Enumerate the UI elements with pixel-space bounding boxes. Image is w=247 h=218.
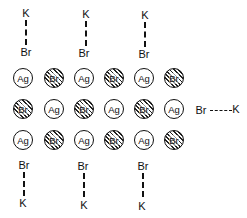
silver-ion: Ag: [74, 130, 94, 150]
dashed-bond: [23, 172, 25, 196]
atom-label: Br: [18, 104, 29, 115]
silver-ion: Ag: [134, 130, 154, 150]
bromide-label: Br: [79, 48, 90, 59]
atom-label: Br: [49, 135, 60, 146]
atom-label: Br: [49, 73, 60, 84]
atom-label: Br: [109, 135, 120, 146]
atom-label: Br: [139, 104, 150, 115]
bromide-ion: Br: [134, 99, 154, 119]
bromide-ion: Br: [104, 130, 124, 150]
atom-label: Ag: [48, 104, 60, 115]
bromide-ion: Br: [164, 68, 184, 88]
silver-ion: Ag: [104, 99, 124, 119]
potassium-label: K: [22, 8, 29, 19]
silver-ion: Ag: [164, 99, 184, 119]
potassium-label: K: [141, 10, 148, 21]
bromide-label: Br: [139, 49, 150, 60]
atom-label: Ag: [108, 104, 120, 115]
silver-ion: Ag: [134, 68, 154, 88]
silver-ion: Ag: [13, 68, 33, 88]
dashed-bond: [142, 173, 144, 197]
atom-label: Br: [169, 73, 180, 84]
silver-ion: Ag: [13, 130, 33, 150]
atom-label: Br: [79, 104, 90, 115]
atom-label: Ag: [168, 104, 180, 115]
bromide-label: Br: [78, 161, 89, 172]
atom-label: Ag: [17, 73, 29, 84]
potassium-label: K: [82, 9, 89, 20]
silver-ion: Ag: [74, 68, 94, 88]
atom-label: Ag: [138, 135, 150, 146]
bromide-ion: Br: [164, 130, 184, 150]
dashed-bond: [144, 22, 146, 47]
bromide-ion: Br: [44, 130, 64, 150]
atom-label: Br: [169, 135, 180, 146]
dashed-bond: [210, 110, 232, 111]
silver-ion: Ag: [44, 99, 64, 119]
potassium-label: K: [80, 200, 87, 211]
bromide-label: Br: [196, 105, 207, 116]
bromide-ion: Br: [13, 99, 33, 119]
bromide-label: Br: [138, 161, 149, 172]
atom-label: Br: [109, 73, 120, 84]
atom-label: Ag: [138, 73, 150, 84]
potassium-label: K: [138, 201, 145, 212]
bromide-ion: Br: [104, 68, 124, 88]
bromide-ion: Br: [74, 99, 94, 119]
dashed-bond: [85, 21, 87, 46]
potassium-label: K: [232, 104, 239, 115]
agbr-lattice-diagram: K Br K Br K Br Ag Br Ag Br Ag Br Br Ag B…: [0, 0, 247, 218]
atom-label: Ag: [78, 73, 90, 84]
dashed-bond: [25, 20, 27, 45]
bromide-ion: Br: [44, 68, 64, 88]
atom-label: Ag: [78, 135, 90, 146]
potassium-label: K: [19, 198, 26, 209]
bromide-label: Br: [21, 47, 32, 58]
atom-label: Ag: [17, 135, 29, 146]
bromide-label: Br: [19, 160, 30, 171]
dashed-bond: [83, 173, 85, 197]
